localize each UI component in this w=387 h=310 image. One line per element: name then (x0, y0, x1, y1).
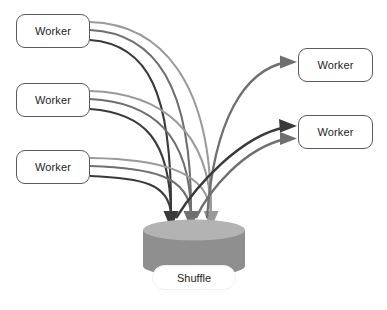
worker-target-1-label: Worker (318, 59, 354, 71)
edge-src3-to-shuffle-mid (90, 166, 191, 214)
shuffle-label-text: Shuffle (177, 272, 211, 284)
worker-source-3[interactable]: Worker (16, 150, 90, 184)
edge-shuffle-to-dst1-mid (207, 62, 287, 218)
edge-src2-to-shuffle-mid (90, 99, 191, 214)
shuffle-label-pill: Shuffle (152, 265, 236, 290)
arrowhead-right-dst2-dark (279, 119, 297, 133)
worker-source-1[interactable]: Worker (16, 14, 90, 48)
diagram-canvas: Worker Worker Worker Worker Worker Shuff… (0, 0, 387, 310)
edge-src2-to-shuffle-dark (90, 109, 171, 214)
edge-src3-to-shuffle-dark (90, 176, 171, 214)
worker-target-1[interactable]: Worker (298, 48, 373, 82)
worker-source-3-label: Worker (35, 161, 71, 173)
worker-source-2-label: Worker (35, 94, 71, 106)
cylinder-top-ellipse (143, 220, 245, 241)
worker-target-2[interactable]: Worker (298, 115, 373, 149)
worker-target-2-label: Worker (318, 126, 354, 138)
worker-source-1-label: Worker (35, 25, 71, 37)
arrowhead-right-dst1 (280, 56, 297, 69)
arrowhead-right-dst2-mid (280, 132, 297, 145)
worker-source-2[interactable]: Worker (16, 83, 90, 117)
